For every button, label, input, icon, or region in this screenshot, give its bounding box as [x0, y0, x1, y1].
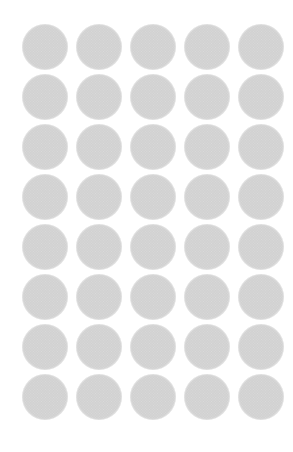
circle-dot	[184, 374, 230, 420]
circle-dot	[184, 274, 230, 320]
circle-row	[0, 224, 293, 270]
circle-row	[0, 24, 293, 70]
circle-dot	[130, 24, 176, 70]
circle-row	[0, 374, 293, 420]
circle-dot	[130, 324, 176, 370]
circle-dot	[238, 324, 284, 370]
circle-row	[0, 74, 293, 120]
circle-dot	[22, 374, 68, 420]
circle-dot	[238, 24, 284, 70]
circle-dot	[238, 274, 284, 320]
circle-dot	[76, 74, 122, 120]
circle-dot	[22, 24, 68, 70]
circle-dot	[184, 174, 230, 220]
circle-row	[0, 124, 293, 170]
circle-dot	[130, 74, 176, 120]
circle-dot	[76, 174, 122, 220]
circle-dot	[22, 124, 68, 170]
circle-dot	[184, 224, 230, 270]
circle-row	[0, 274, 293, 320]
circle-dot	[76, 274, 122, 320]
circle-dot	[22, 74, 68, 120]
circle-dot	[76, 124, 122, 170]
circle-dot	[22, 224, 68, 270]
circle-grid-canvas	[0, 0, 293, 452]
circle-row	[0, 174, 293, 220]
circle-dot	[184, 24, 230, 70]
circle-dot	[184, 124, 230, 170]
circle-dot	[130, 224, 176, 270]
circle-dot	[184, 74, 230, 120]
circle-dot	[238, 124, 284, 170]
circle-dot	[76, 324, 122, 370]
circle-dot	[130, 174, 176, 220]
circle-dot	[22, 324, 68, 370]
circle-dot	[76, 374, 122, 420]
circle-dot	[76, 24, 122, 70]
circle-dot	[22, 274, 68, 320]
circle-dot	[130, 124, 176, 170]
circle-dot	[238, 374, 284, 420]
circle-dot	[130, 274, 176, 320]
circle-dot	[76, 224, 122, 270]
circle-dot	[22, 174, 68, 220]
circle-dot	[130, 374, 176, 420]
circle-dot	[238, 174, 284, 220]
circle-dot	[184, 324, 230, 370]
circle-row	[0, 324, 293, 370]
circle-dot	[238, 74, 284, 120]
circle-dot	[238, 224, 284, 270]
